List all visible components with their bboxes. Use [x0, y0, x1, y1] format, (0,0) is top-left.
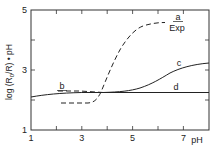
x-tick-label: 5	[130, 133, 135, 143]
curve-c	[103, 63, 209, 93]
y-tick-label: 3	[22, 65, 27, 75]
x-tick-label: 1	[28, 133, 33, 143]
chart: 1 3 5 7 pH 5 3 1 log (R0/R) • pH a Exp b…	[0, 0, 217, 149]
y-tick-label: 5	[22, 5, 27, 15]
curve-label-b: b	[59, 81, 64, 91]
x-tick-label: 3	[79, 133, 84, 143]
y-tick-label: 1	[22, 125, 27, 135]
x-tick-label: 7	[181, 133, 186, 143]
y-axis-title: log (R0/R) • pH	[4, 44, 15, 100]
curve-label-a: a	[175, 12, 180, 22]
x-axis-ticks	[56, 10, 183, 130]
curve-d	[31, 93, 209, 98]
curve-label-exp: Exp	[169, 23, 185, 33]
curve-label-d: d	[173, 82, 178, 92]
curve-label-c: c	[177, 58, 182, 68]
x-axis-title: pH	[191, 135, 203, 145]
